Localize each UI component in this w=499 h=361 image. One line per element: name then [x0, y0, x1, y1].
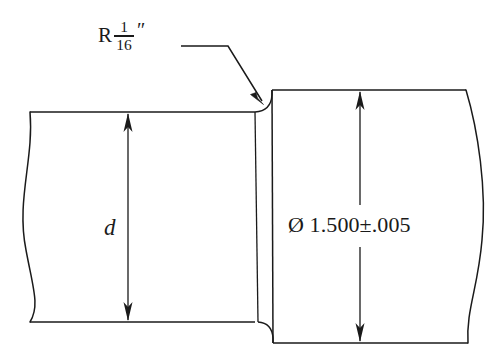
radius-leader-line [181, 46, 262, 101]
fraction-numerator: 1 [118, 19, 130, 35]
radius-prefix-label: R [98, 25, 112, 46]
radius-callout: R 1 16 ″ [98, 18, 145, 52]
radius-fraction: 1 16 [114, 19, 134, 53]
fraction-denominator: 16 [114, 37, 134, 53]
right-break-line [466, 90, 483, 343]
shoulder-face-line [255, 112, 258, 322]
fillet-radius-bottom [258, 322, 273, 343]
large-diameter-dimension-text: Ø 1.500±.005 [288, 214, 411, 236]
left-break-line [23, 112, 35, 322]
large-shaft-left-edge [272, 90, 273, 343]
shaft-geometry [0, 0, 499, 361]
inch-mark-icon: ″ [137, 20, 145, 40]
engineering-drawing: R 1 16 ″ d Ø 1.500±.005 [0, 0, 499, 361]
small-diameter-label: d [104, 216, 116, 239]
